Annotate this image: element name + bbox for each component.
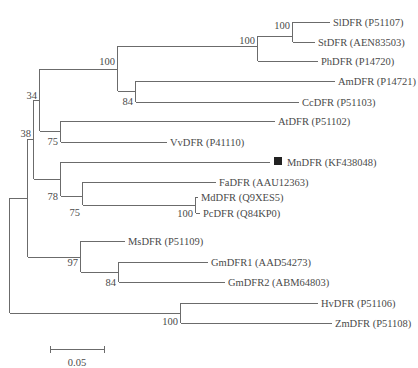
bootstrap-hv-zm: 100 (162, 316, 178, 327)
taxon-label-pc: PcDFR (Q84KP0) (203, 208, 281, 220)
bootstrap-node-34: 34 (27, 90, 38, 101)
filled-square-marker-icon (274, 157, 282, 165)
bootstrap-node-38: 38 (21, 128, 32, 139)
taxon-label-gm1: GmDFR1 (AAD54273) (211, 257, 312, 269)
bootstrap-rosaceae: 75 (70, 207, 81, 218)
taxon-label-ph: PhDFR (P14720) (321, 56, 395, 68)
taxon-label-cc: CcDFR (P51103) (302, 97, 376, 109)
bootstrap-solanaceae: 100 (239, 35, 255, 46)
taxon-labels: SlDFR (P51107) StDFR (AEN83503) PhDFR (P… (128, 17, 416, 330)
bootstrap-at-vv: 75 (48, 136, 59, 147)
taxon-label-mn: MnDFR (KF438048) (287, 157, 377, 169)
taxon-label-sl: SlDFR (P51107) (333, 17, 404, 29)
taxon-label-gm2: GmDFR2 (ABM64803) (228, 277, 330, 289)
taxon-label-hv: HvDFR (P51106) (321, 298, 396, 310)
taxon-label-am: AmDFR (P14721) (338, 76, 416, 88)
bootstrap-node-78: 78 (48, 191, 59, 202)
taxon-label-ms: MsDFR (P51109) (128, 236, 204, 248)
tree-canvas: SlDFR (P51107) StDFR (AEN83503) PhDFR (P… (0, 0, 418, 368)
taxon-label-fa: FaDFR (AAU12363) (219, 177, 309, 189)
bootstrap-md-pc: 100 (177, 208, 193, 219)
bootstrap-sl-st: 100 (274, 20, 290, 31)
taxon-label-zm: ZmDFR (P51108) (335, 318, 412, 330)
taxon-label-md: MdDFR (Q9XES5) (201, 192, 284, 204)
bootstrap-ms-gm: 97 (68, 257, 79, 268)
taxon-label-at: AtDFR (P51102) (278, 116, 351, 128)
bootstrap-top-clade: 100 (99, 56, 115, 67)
bootstrap-am-cc: 84 (123, 96, 134, 107)
taxon-label-vv: VvDFR (P41110) (170, 137, 245, 149)
scale-bar-label: 0.05 (68, 357, 86, 368)
taxon-label-st: StDFR (AEN83503) (318, 37, 405, 49)
phylogenetic-tree-figure: SlDFR (P51107) StDFR (AEN83503) PhDFR (P… (0, 0, 418, 368)
bootstrap-gm: 84 (106, 277, 117, 288)
scale-bar: 0.05 (50, 346, 105, 368)
